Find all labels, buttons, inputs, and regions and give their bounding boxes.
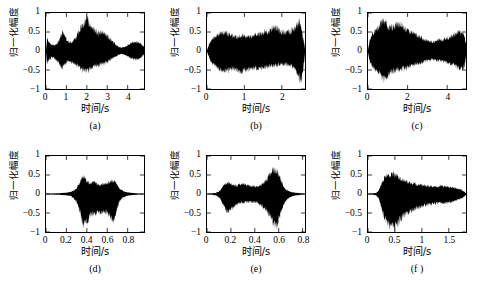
y-tick-labels-d: −1−0.500.51 [18,155,42,233]
y-tick-c-0: −1 [352,85,362,95]
x-tick-e-3: 0.6 [273,236,285,246]
x-tick-e-2: 0.4 [249,236,261,246]
x-tick-a-4: 4 [126,93,131,103]
y-tick-f-0: −1 [352,228,362,238]
subplot-caption-c: (c) [367,120,467,132]
subplot-caption-b: (b) [206,120,306,132]
y-tick-b-0: −1 [191,85,201,95]
waveform-trace-e [207,166,305,230]
x-tick-d-2: 0.4 [81,236,93,246]
y-axis-label-e: 归一化幅度 [169,138,180,212]
plot-area-a [45,12,145,90]
subplot-a: 归一化幅度 −1−0.500.51 01234 时间/s (a) [0,0,161,143]
x-axis-label-e: 时间/s [206,246,306,258]
x-tick-d-1: 0.2 [60,236,72,246]
y-axis-label-b: 归一化幅度 [169,0,180,69]
subplot-e: 归一化幅度 −1−0.500.51 00.20.40.60.8 时间/s (e) [161,143,322,286]
x-tick-a-0: 0 [43,93,48,103]
x-tick-e-0: 0 [204,236,209,246]
y-tick-b-2: 0 [196,46,201,56]
y-tick-d-0: −1 [30,228,40,238]
x-axis-label-c: 时间/s [367,103,467,115]
waveform-svg-a [46,13,144,89]
y-axis-label-wrap-c: 归一化幅度 [322,12,338,90]
x-axis-label-f: 时间/s [367,246,467,258]
y-tick-e-2: 0 [196,189,201,199]
y-tick-a-4: 1 [35,7,40,17]
x-tick-b-2: 2 [280,93,285,103]
waveform-svg-f [368,156,466,232]
x-tick-a-1: 1 [63,93,68,103]
y-tick-a-2: 0 [35,46,40,56]
y-tick-e-1: −0.5 [184,209,201,219]
x-tick-e-4: 0.8 [298,236,310,246]
y-axis-label-wrap-f: 归一化幅度 [322,155,338,233]
subplot-caption-f: (f ) [367,263,467,275]
subplot-b: 归一化幅度 −1−0.500.51 012 时间/s (b) [161,0,322,143]
subplot-caption-d: (d) [45,263,145,275]
plot-area-f [367,155,467,233]
y-tick-a-3: 0.5 [28,27,40,37]
y-tick-a-1: −0.5 [23,66,40,76]
x-tick-d-0: 0 [43,236,48,246]
y-tick-b-3: 0.5 [189,27,201,37]
subplot-f: 归一化幅度 −1−0.500.51 00.511.5 时间/s (f ) [322,143,483,286]
y-axis-label-wrap-d: 归一化幅度 [0,155,16,233]
figure-waveform-grid: 归一化幅度 −1−0.500.51 01234 时间/s (a) 归一化幅度 −… [0,0,483,286]
plot-area-e [206,155,306,233]
y-tick-d-2: 0 [35,189,40,199]
y-axis-label-c: 归一化幅度 [330,0,341,69]
waveform-trace-c [368,16,466,84]
waveform-trace-f [368,171,466,231]
y-axis-label-wrap-e: 归一化幅度 [161,155,177,233]
y-tick-c-1: −0.5 [345,66,362,76]
y-tick-f-3: 0.5 [350,170,362,180]
x-axis-label-a: 时间/s [45,103,145,115]
x-tick-c-1: 2 [405,93,410,103]
x-axis-label-d: 时间/s [45,246,145,258]
y-tick-labels-e: −1−0.500.51 [179,155,203,233]
x-tick-c-0: 0 [365,93,370,103]
x-tick-c-2: 4 [445,93,450,103]
waveform-svg-b [207,13,305,89]
waveform-trace-b [207,18,305,84]
plot-area-d [45,155,145,233]
y-tick-f-4: 1 [357,150,362,160]
x-tick-a-2: 2 [84,93,89,103]
waveform-svg-c [368,13,466,89]
plot-area-c [367,12,467,90]
y-tick-e-4: 1 [196,150,201,160]
x-axis-label-b: 时间/s [206,103,306,115]
y-tick-b-1: −0.5 [184,66,201,76]
x-tick-b-0: 0 [204,93,209,103]
y-tick-labels-b: −1−0.500.51 [179,12,203,90]
x-tick-a-3: 3 [105,93,110,103]
x-tick-f-0: 0 [365,236,370,246]
y-tick-e-3: 0.5 [189,170,201,180]
y-tick-d-3: 0.5 [28,170,40,180]
y-tick-a-0: −1 [30,85,40,95]
y-tick-f-2: 0 [357,189,362,199]
subplot-caption-a: (a) [45,120,145,132]
x-tick-f-3: 1.5 [443,236,455,246]
waveform-trace-d [46,174,144,228]
x-tick-e-1: 0.2 [224,236,236,246]
y-tick-labels-f: −1−0.500.51 [340,155,364,233]
y-axis-label-d: 归一化幅度 [8,138,19,212]
plot-area-b [206,12,306,90]
x-tick-b-1: 1 [242,93,247,103]
y-tick-d-1: −0.5 [23,209,40,219]
y-tick-b-4: 1 [196,7,201,17]
y-tick-e-0: −1 [191,228,201,238]
subplot-d: 归一化幅度 −1−0.500.51 00.20.40.60.8 时间/s (d) [0,143,161,286]
y-axis-label-wrap-b: 归一化幅度 [161,12,177,90]
x-tick-f-1: 0.5 [389,236,401,246]
waveform-trace-a [46,14,144,74]
y-axis-label-wrap-a: 归一化幅度 [0,12,16,90]
y-axis-label-f: 归一化幅度 [330,138,341,212]
y-tick-c-2: 0 [357,46,362,56]
y-tick-labels-c: −1−0.500.51 [340,12,364,90]
x-tick-d-4: 0.8 [122,236,134,246]
x-tick-f-2: 1 [420,236,425,246]
y-tick-c-4: 1 [357,7,362,17]
